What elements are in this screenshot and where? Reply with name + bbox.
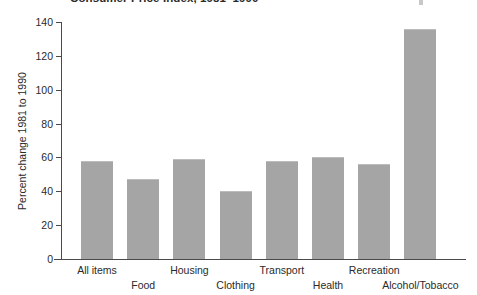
bar xyxy=(404,29,436,259)
crop-mark xyxy=(419,0,423,5)
y-tick: 40 xyxy=(18,191,61,192)
y-tick: 140 xyxy=(18,22,61,23)
bar xyxy=(312,157,344,259)
y-tick-label: 40 xyxy=(23,186,53,197)
bar xyxy=(81,161,113,259)
y-tick-label: 100 xyxy=(23,85,53,96)
y-tick: 120 xyxy=(18,56,61,57)
y-tick-label: 80 xyxy=(23,119,53,130)
y-axis-line xyxy=(61,22,62,260)
x-tick-label: Alcohol/Tobacco xyxy=(360,280,477,291)
y-tick-label: 20 xyxy=(23,220,53,231)
bar xyxy=(127,179,159,259)
y-tick-label: 0 xyxy=(23,254,53,265)
bar-chart: Consumer Price Index, 1981–1990 Percent … xyxy=(0,0,477,295)
y-tick: 100 xyxy=(18,90,61,91)
y-tick-label: 140 xyxy=(23,17,53,28)
bar xyxy=(173,159,205,259)
bar xyxy=(358,164,390,259)
y-tick-label: 60 xyxy=(23,152,53,163)
y-tick: 60 xyxy=(18,157,61,158)
bar xyxy=(266,161,298,259)
x-axis-line xyxy=(54,259,466,260)
y-tick-label: 120 xyxy=(23,51,53,62)
y-axis-title: Percent change 1981 to 1990 xyxy=(16,34,28,249)
chart-title: Consumer Price Index, 1981–1990 xyxy=(70,0,400,4)
y-tick: 80 xyxy=(18,124,61,125)
y-tick: 20 xyxy=(18,225,61,226)
bar xyxy=(220,191,252,259)
x-tick-label: Recreation xyxy=(314,265,434,276)
